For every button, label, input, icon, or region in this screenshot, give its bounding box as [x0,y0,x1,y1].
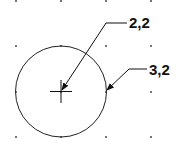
cad-drawing: 2,2 3,2 [0,0,179,148]
center-cross-icon [50,80,72,103]
callout-edge [107,69,147,90]
callout-edge-label: 3,2 [149,61,170,78]
callout-center-label: 2,2 [129,14,150,31]
